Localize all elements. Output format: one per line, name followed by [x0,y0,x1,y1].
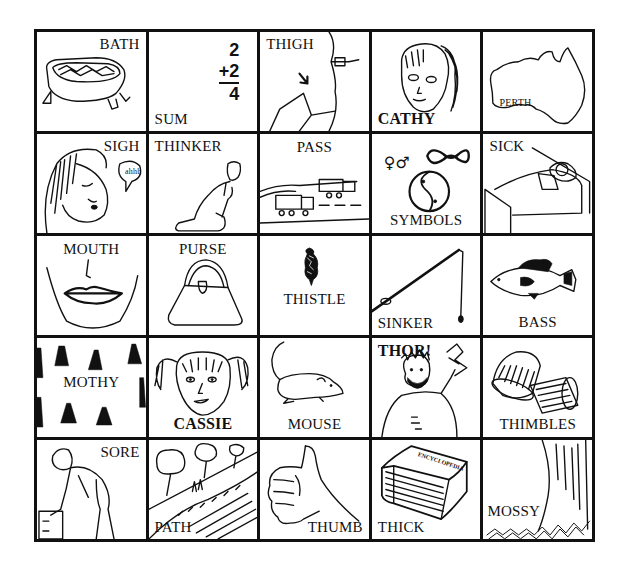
cell-mossy: MOSSY [483,440,592,539]
cell-label: SINKER [378,316,433,331]
cell-cassie: CASSIE [149,338,258,437]
svg-text:♀♂: ♀♂ [384,153,410,172]
cell-thick: ENCYCLOPEDIA THICK [372,440,481,539]
thistle-icon [260,236,369,335]
cell-label: THINKER [155,139,222,154]
cell-label: MOUTH [37,242,146,257]
cell-australia: PERTH [483,32,592,131]
cell-thistle: THISTLE [260,236,369,335]
cell-purse: PURSE [149,236,258,335]
sum-top: 2 [219,40,240,61]
cell-label: PURSE [149,242,258,257]
cell-sore: SORE [37,440,146,539]
perth-label: PERTH [499,98,531,108]
cell-label: THISTLE [260,292,369,307]
cell-path: PATH [149,440,258,539]
cell-label: SORE [100,445,139,460]
cell-label: THICK [378,520,425,535]
cell-bass: BASS [483,236,592,335]
cell-label: THIGH [266,37,314,52]
cell-label: CATHY [378,111,436,127]
cell-label: MOUSE [260,417,369,432]
cell-label: THUMB [308,520,363,535]
cell-thor: THOR! [372,338,481,437]
cell-label: PASS [260,140,369,155]
cell-label: BATH [100,37,140,52]
cell-thinker: THINKER [149,134,258,233]
cell-sick: SICK [483,134,592,233]
sum-result: 4 [219,82,240,105]
mossy-tree-icon [483,440,592,539]
cell-thimbles: THIMBLES [483,338,592,437]
cell-label: SIGH [104,139,140,154]
cell-bath: BATH [37,32,146,131]
cell-label: MOSSY [487,504,540,519]
cell-mouse: MOUSE [260,338,369,437]
cell-label: SICK [489,139,524,154]
cell-cathy: CATHY [372,32,481,131]
cell-symbols: ♀♂ SYMBOLS [372,134,481,233]
cell-label: CASSIE [149,416,258,432]
australia-map-icon [483,32,592,131]
cell-sum: 2 +2 4 SUM [149,32,258,131]
cell-sinker: SINKER [372,236,481,335]
cell-pass: PASS [260,134,369,233]
sum-addend: +2 [219,61,240,82]
cell-sigh: ahhh SIGH [37,134,146,233]
cell-label: BASS [483,315,592,330]
sigh-bubble-text: ahhh [125,168,141,176]
cell-mothy: MOTHY [37,338,146,437]
cell-label: PATH [155,520,192,535]
cell-label: MOTHY [37,374,146,389]
cell-label: SYMBOLS [372,213,481,228]
cell-label: SUM [155,112,188,127]
cell-label: THIMBLES [483,417,592,432]
cell-label: THOR! [378,343,431,359]
cell-thumb: THUMB [260,440,369,539]
picture-word-grid: BATH 2 +2 4 SUM THIGH CATHY PERTH [34,29,595,542]
cell-thigh: THIGH [260,32,369,131]
cell-mouth: MOUTH [37,236,146,335]
addition-sum-icon: 2 +2 4 [219,40,240,105]
